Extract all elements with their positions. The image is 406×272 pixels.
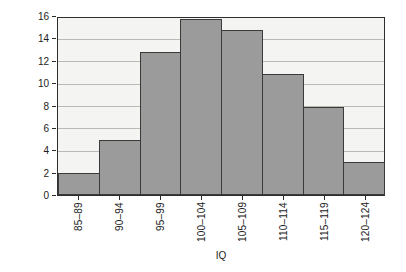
y-tick-label: 16 bbox=[25, 12, 49, 22]
y-tick-mark bbox=[52, 128, 56, 129]
y-tick-label: 8 bbox=[25, 102, 49, 112]
y-tick-label: 0 bbox=[25, 191, 49, 201]
x-tick-mark bbox=[242, 196, 243, 200]
y-tick-mark bbox=[52, 195, 56, 196]
y-tick-mark bbox=[52, 106, 56, 107]
x-tick-label: 100–104 bbox=[196, 202, 207, 242]
x-axis-tick-labels: 85–8990–9495–99100–104105–109110–114115–… bbox=[57, 196, 385, 256]
histogram-figure: Number of students 0246810121416 85–8990… bbox=[0, 0, 406, 272]
x-tick-mark bbox=[365, 196, 366, 200]
bar bbox=[343, 162, 385, 195]
bar bbox=[140, 52, 182, 195]
x-tick-label: 105–109 bbox=[237, 202, 248, 242]
bar-series bbox=[58, 18, 384, 195]
x-tick-mark bbox=[160, 196, 161, 200]
x-tick-mark bbox=[78, 196, 79, 200]
x-tick-group: 95–99 bbox=[139, 196, 180, 256]
y-tick-label: 14 bbox=[25, 34, 49, 44]
x-tick-label: 115–119 bbox=[319, 202, 330, 241]
x-tick-group: 110–114 bbox=[262, 196, 303, 256]
x-axis-title: IQ bbox=[57, 250, 385, 261]
x-tick-label: 120–124 bbox=[360, 202, 371, 242]
y-tick-label: 2 bbox=[25, 169, 49, 179]
y-tick-mark bbox=[52, 83, 56, 84]
x-tick-label: 85–89 bbox=[73, 202, 84, 231]
x-tick-label: 90–94 bbox=[114, 202, 125, 231]
x-tick-mark bbox=[324, 196, 325, 200]
x-tick-group: 120–124 bbox=[344, 196, 385, 256]
y-tick-mark bbox=[52, 150, 56, 151]
x-tick-group: 90–94 bbox=[98, 196, 139, 256]
bar bbox=[303, 107, 345, 195]
bar bbox=[262, 74, 304, 195]
x-tick-group: 105–109 bbox=[221, 196, 262, 256]
x-tick-label: 110–114 bbox=[278, 202, 289, 241]
x-tick-mark bbox=[283, 196, 284, 200]
y-tick-mark bbox=[52, 61, 56, 62]
y-tick-label: 10 bbox=[25, 79, 49, 89]
x-tick-mark bbox=[201, 196, 202, 200]
y-axis-tick-labels: 0246810121416 bbox=[0, 0, 56, 272]
bar bbox=[180, 19, 222, 195]
x-tick-group: 100–104 bbox=[180, 196, 221, 256]
y-tick-label: 6 bbox=[25, 124, 49, 134]
y-tick-label: 12 bbox=[25, 57, 49, 67]
y-tick-mark bbox=[52, 38, 56, 39]
x-tick-mark bbox=[119, 196, 120, 200]
bar bbox=[99, 140, 141, 195]
y-tick-label: 4 bbox=[25, 146, 49, 156]
y-tick-mark bbox=[52, 16, 56, 17]
y-tick-mark bbox=[52, 173, 56, 174]
plot-area bbox=[57, 17, 385, 196]
x-tick-label: 95–99 bbox=[155, 202, 166, 231]
x-tick-group: 115–119 bbox=[303, 196, 344, 256]
bar bbox=[58, 173, 100, 195]
bar bbox=[221, 30, 263, 195]
x-tick-group: 85–89 bbox=[57, 196, 98, 256]
